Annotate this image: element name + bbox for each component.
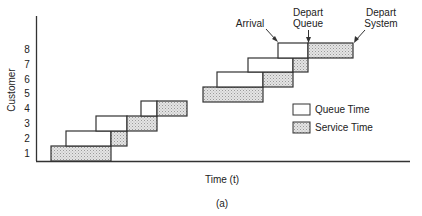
depart-system-label-line1: Depart xyxy=(366,7,396,18)
customer-3-bar xyxy=(96,116,157,131)
y-tick-2: 2 xyxy=(24,133,30,144)
y-axis-label: Customer xyxy=(6,68,17,112)
y-tick-6: 6 xyxy=(24,74,30,85)
legend-label-queue: Queue Time xyxy=(315,104,370,115)
queue-time xyxy=(278,43,308,58)
customer-2-bar xyxy=(66,131,127,146)
customer-8-bar xyxy=(278,43,353,58)
y-tick-8: 8 xyxy=(24,44,30,55)
service-time xyxy=(127,116,157,131)
service-time xyxy=(157,101,187,116)
arrow-head-icon xyxy=(306,37,311,43)
y-tick-5: 5 xyxy=(24,88,30,99)
queue-timing-diagram: 1 2 3 4 5 6 7 8 Customer xyxy=(0,0,422,216)
depart-system-label-line2: System xyxy=(364,18,397,29)
queue-time xyxy=(141,101,157,116)
legend: Queue Time Service Time xyxy=(293,104,373,133)
depart-queue-label-line2: Queue xyxy=(293,18,323,29)
figure-caption: (a) xyxy=(216,198,228,209)
depart-queue-label-line1: Depart xyxy=(293,7,323,18)
arrival-label: Arrival xyxy=(236,18,264,29)
queue-time xyxy=(66,131,111,146)
annotation-depart-system: Depart System xyxy=(354,7,398,43)
customer-4-bar xyxy=(141,101,187,116)
customer-7-bar xyxy=(248,58,308,72)
queue-time xyxy=(248,58,293,72)
queue-time xyxy=(96,116,127,131)
service-time xyxy=(263,72,293,87)
legend-swatch-service xyxy=(293,122,310,133)
customer-5-bar xyxy=(203,87,263,102)
customer-6-bar xyxy=(217,72,293,87)
customer-1-bar xyxy=(51,146,111,161)
legend-label-service: Service Time xyxy=(315,122,373,133)
y-tick-3: 3 xyxy=(24,118,30,129)
service-time xyxy=(203,87,263,102)
y-tick-1: 1 xyxy=(24,148,30,159)
legend-swatch-queue xyxy=(293,104,310,115)
queue-time xyxy=(217,72,263,87)
service-time xyxy=(293,58,308,72)
service-time xyxy=(111,131,127,146)
y-tick-labels: 1 2 3 4 5 6 7 8 xyxy=(24,44,30,159)
y-tick-4: 4 xyxy=(24,103,30,114)
annotation-depart-queue: Depart Queue xyxy=(293,7,323,43)
service-time xyxy=(308,43,353,58)
service-time xyxy=(51,146,111,161)
x-axis-label: Time (t) xyxy=(205,174,239,185)
y-tick-7: 7 xyxy=(24,59,30,70)
annotation-arrival: Arrival xyxy=(236,18,278,42)
